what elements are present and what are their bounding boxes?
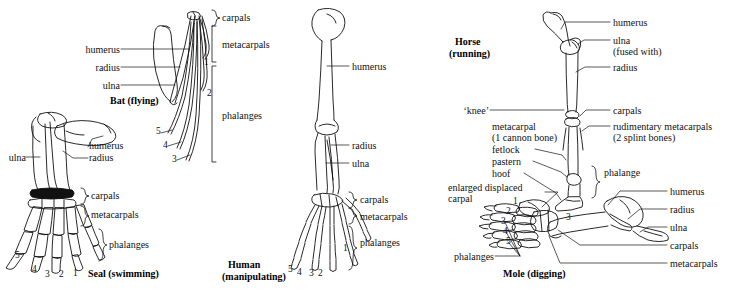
bat-label-radius: radius <box>96 62 120 73</box>
mole-label-phalanges: phalanges <box>454 251 494 262</box>
human-digit-5: 5 <box>288 264 293 274</box>
human-digit-3: 3 <box>309 268 314 278</box>
human-leader-lines <box>326 66 349 163</box>
seal-digit-4: 4 <box>32 264 37 274</box>
horse-skeleton <box>543 12 583 211</box>
seal-digit-5: 5 <box>15 250 20 260</box>
human-brace-metacarpals: metacarpals <box>360 211 408 222</box>
mole-digit-5: 5 <box>506 236 511 246</box>
seal-label-radius: radius <box>89 152 113 163</box>
human-brace-phalanges: phalanges <box>360 237 400 248</box>
human-label-humerus: humerus <box>352 61 386 72</box>
bat-digit-2: 2 <box>207 88 212 98</box>
horse-label-splint-bones: (2 splint bones) <box>613 132 675 143</box>
horse-label-pastern: pastern <box>492 156 521 167</box>
mole-caption: Mole (digging) <box>503 268 566 279</box>
mole-digit-2: 2 <box>506 206 511 216</box>
mole-digit-1: 1 <box>513 196 518 206</box>
bat-brace-phalanges: phalanges <box>222 110 262 121</box>
horse-label-radius: radius <box>613 62 637 73</box>
bat-digit-4: 4 <box>163 140 168 150</box>
bat-label-humerus: humerus <box>86 44 120 55</box>
horse-label-carpals: carpals <box>613 105 641 116</box>
human-label-ulna: ulna <box>352 158 369 169</box>
mole-label-metacarpals: metacarpals <box>670 258 718 269</box>
bat-caption: Bat (flying) <box>110 95 159 106</box>
horse-label-ulna-note: (fused with) <box>613 46 662 57</box>
horse-label-humerus: humerus <box>613 17 647 28</box>
bat-digit-5: 5 <box>156 126 161 136</box>
mole-label-ulna: ulna <box>670 222 687 233</box>
mole-digit-4: 4 <box>503 226 508 236</box>
mole-digit-3: 3 <box>501 216 506 226</box>
bat-skeleton <box>153 12 209 162</box>
horse-label-fetlock: fetlock <box>492 144 520 155</box>
bat-digit-3: 3 <box>172 154 177 164</box>
bat-label-ulna: ulna <box>103 80 120 91</box>
human-caption-line2: (manipulating) <box>222 271 286 282</box>
horse-phalange-brace <box>592 166 600 198</box>
bat-digit-1: 1 <box>204 57 209 67</box>
horse-label-metacarpal: metacarpal <box>492 121 536 132</box>
seal-brace-phalanges: phalanges <box>109 239 149 250</box>
human-digit-1: 1 <box>343 243 348 253</box>
comparative-anatomy-figure: humerus radius ulna Bat (flying) carpals… <box>0 0 741 292</box>
horse-brace-phalange: phalange <box>604 167 640 178</box>
seal-brace-carpals: carpals <box>91 190 119 201</box>
horse-label-cannon-bone: (1 cannon bone) <box>492 132 557 143</box>
bat-brace-carpals: carpals <box>222 12 250 23</box>
bat-brace-metacarpals: metacarpals <box>222 39 270 50</box>
horse-label-knee: ‘knee’ <box>463 105 489 116</box>
seal-digit-3: 3 <box>45 269 50 279</box>
horse-digit-3: 3 <box>566 212 571 222</box>
human-digit-4: 4 <box>297 267 302 277</box>
mole-label-carpals: carpals <box>670 240 698 251</box>
mole-label-humerus: humerus <box>670 186 704 197</box>
seal-digit-1: 1 <box>73 268 78 278</box>
mole-label-radius: radius <box>670 204 694 215</box>
human-label-radius: radius <box>352 140 376 151</box>
seal-caption: Seal (swimming) <box>88 268 159 279</box>
horse-caption-line2: (running) <box>449 48 490 59</box>
horse-label-ulna: ulna <box>613 35 630 46</box>
mole-label-enlarged-carpal-line2: carpal <box>448 193 472 204</box>
bat-braces <box>212 10 220 162</box>
seal-digit-2: 2 <box>59 269 64 279</box>
human-caption-line1: Human <box>228 259 260 270</box>
horse-caption-line1: Horse <box>455 36 481 47</box>
horse-label-hoof: hoof <box>492 168 510 179</box>
human-digit-2: 2 <box>318 268 323 278</box>
seal-label-humerus: humerus <box>89 140 123 151</box>
seal-brace-metacarpals: metacarpals <box>91 209 139 220</box>
seal-label-ulna: ulna <box>9 152 26 163</box>
bat-leader-lines <box>121 49 189 85</box>
mole-label-enlarged-carpal-line1: enlarged displaced <box>448 182 523 193</box>
horse-label-rudimentary-metacarpals: rudimentary metacarpals <box>613 121 712 132</box>
human-brace-carpals: carpals <box>360 194 388 205</box>
